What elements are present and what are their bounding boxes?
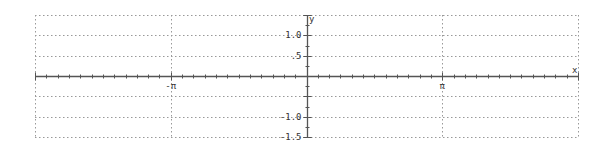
x-tick-label: π	[440, 81, 446, 91]
y-axis-label: y	[309, 14, 315, 24]
tick-labels: -ππ1.0.5-1.0-1.5	[165, 30, 445, 142]
y-tick-label: .5	[291, 51, 302, 61]
plot-area: -ππ1.0.5-1.0-1.5 x y	[0, 0, 608, 148]
y-tick-label: 1.0	[285, 30, 301, 40]
x-axis-label: x	[572, 65, 578, 75]
x-tick-label: -π	[165, 81, 176, 91]
y-tick-label: -1.0	[280, 112, 302, 122]
y-tick-label: -1.5	[280, 132, 302, 142]
